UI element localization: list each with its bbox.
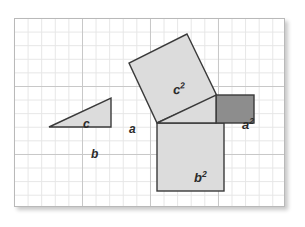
figure-frame: c2 a2 b2 a b c	[14, 18, 285, 207]
label-a-squared: a2	[242, 118, 254, 131]
diagram-stage: c2 a2 b2 a b c	[0, 0, 305, 227]
label-c-squared: c2	[173, 83, 186, 97]
square-b2-shape	[157, 123, 224, 191]
geometry-vector-layer	[15, 19, 284, 206]
label-side-c: c	[83, 118, 90, 130]
right-triangle-shape	[49, 98, 111, 127]
label-side-b: b	[91, 148, 98, 160]
label-side-a: a	[129, 123, 136, 135]
label-b-squared: b2	[194, 171, 207, 184]
